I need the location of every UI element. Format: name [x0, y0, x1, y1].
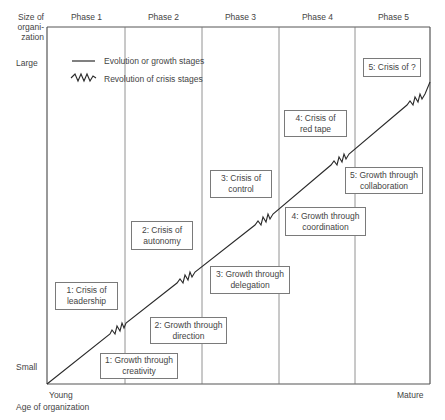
crisis-stage-1-box: 1: Crisis of leadership	[55, 282, 118, 310]
growth-stage-label: 2: Growth through	[151, 320, 226, 331]
crisis-stage-label: autonomy	[132, 236, 192, 247]
growth-stage-3-box: 3: Growth through delegation	[210, 266, 290, 294]
crisis-stage-2-box: 2: Crisis of autonomy	[131, 221, 193, 250]
crisis-stage-label: 1: Crisis of	[56, 285, 117, 296]
crisis-stage-label: 4: Crisis of	[285, 113, 346, 124]
crisis-stage-5-box: 5: Crisis of ?	[363, 58, 421, 77]
growth-stage-2-box: 2: Growth through direction	[150, 317, 227, 344]
growth-stage-4-box: 4: Growth through coordination	[285, 207, 366, 236]
crisis-stage-label: red tape	[285, 124, 346, 135]
growth-stage-5-box: 5: Growth through collaboration	[345, 167, 423, 194]
crisis-stage-label: control	[211, 184, 271, 195]
growth-stage-label: coordination	[286, 222, 365, 233]
crisis-stage-label: leadership	[56, 296, 117, 307]
legend-revolution-label: Revolution of crisis stages	[104, 74, 203, 84]
growth-stage-label: 3: Growth through	[211, 269, 289, 280]
growth-stage-1-box: 1: Growth through creativity	[100, 353, 178, 379]
growth-stage-label: creativity	[101, 366, 177, 377]
legend-evolution-label: Evolution or growth stages	[104, 56, 204, 66]
growth-line	[47, 82, 430, 384]
crisis-stage-label: 2: Crisis of	[132, 225, 192, 236]
growth-stage-label: delegation	[211, 280, 289, 291]
revolution-legend-icon	[71, 74, 96, 81]
crisis-stage-4-box: 4: Crisis of red tape	[284, 110, 347, 137]
growth-stage-label: 5: Growth through	[346, 170, 422, 181]
growth-stage-label: 4: Growth through	[286, 211, 365, 222]
growth-stage-label: collaboration	[346, 181, 422, 192]
crisis-stage-label: 3: Crisis of	[211, 173, 271, 184]
growth-stage-label: direction	[151, 331, 226, 342]
crisis-stage-3-box: 3: Crisis of control	[210, 170, 272, 198]
crisis-stage-label: 5: Crisis of ?	[364, 62, 420, 73]
growth-stage-label: 1: Growth through	[101, 355, 177, 366]
